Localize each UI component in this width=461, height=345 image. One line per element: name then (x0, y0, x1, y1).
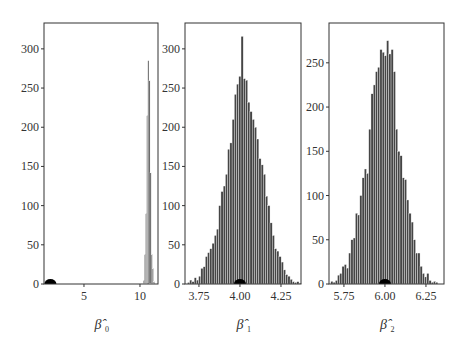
histogram-bar (250, 112, 252, 284)
histogram-bar (373, 85, 375, 284)
histogram-bar (427, 273, 429, 284)
histogram-bar (252, 119, 254, 284)
histogram-bar (254, 127, 256, 284)
histogram-bar (239, 76, 241, 284)
histogram-bar (371, 94, 373, 284)
x-tick-label: 5 (81, 289, 87, 303)
y-tick-label: 250 (21, 81, 39, 95)
y-tick-label: 150 (162, 159, 180, 173)
histogram-bar (190, 280, 192, 284)
histogram-bar (429, 280, 431, 284)
histogram-bar (288, 276, 290, 284)
x-axis-ticks: 5.756.006.25 (333, 284, 436, 303)
true-value-marker (44, 279, 56, 284)
histogram-bar (413, 240, 415, 284)
histogram-bar (393, 72, 395, 284)
histogram-bar (340, 273, 342, 284)
histogram-bar (398, 151, 400, 284)
histogram-bar (196, 280, 198, 284)
axes-frame (44, 23, 158, 284)
histogram-bar (378, 67, 380, 284)
histogram-bar (232, 119, 234, 284)
histogram-bar (281, 262, 283, 284)
histogram-bar (396, 129, 398, 284)
y-tick-label: 250 (306, 56, 324, 70)
histogram-bar (369, 129, 371, 284)
x-tick-label: 6.00 (374, 289, 395, 303)
y-tick-label: 50 (168, 238, 180, 252)
histogram-bars (143, 61, 154, 284)
histogram-bar (402, 178, 404, 284)
y-axis-ticks: 050100150200250300 (162, 42, 185, 291)
x-tick-label: 5.75 (333, 289, 354, 303)
histogram-bar (210, 249, 212, 284)
histogram-bar (335, 280, 337, 284)
histogram-bar (420, 266, 422, 284)
x-axis-label-subscript: 0 (105, 325, 109, 334)
x-tick-label: 4.00 (229, 289, 250, 303)
histogram-bar (248, 102, 250, 284)
histogram-bar (358, 215, 360, 284)
x-axis-label-subscript: 1 (247, 325, 251, 334)
histogram-bar (407, 200, 409, 284)
histogram-bar (418, 253, 420, 284)
x-axis-ticks: 510 (81, 284, 146, 303)
histogram-bar (228, 149, 230, 284)
x-tick-label: 6.25 (415, 289, 436, 303)
histogram-bar (212, 243, 214, 284)
histogram-bar (286, 275, 288, 284)
histogram-panel-beta2: 0501001502002505.756.006.25β̂2 (306, 23, 444, 334)
histogram-figure: 050100150200250300510β̂0 050100150200250… (0, 0, 461, 345)
y-tick-label: 50 (312, 233, 324, 247)
histogram-bar (387, 41, 389, 284)
y-tick-label: 0 (33, 277, 39, 291)
histogram-bar (364, 169, 366, 284)
histogram-bar (382, 52, 384, 284)
y-tick-label: 0 (318, 277, 324, 291)
histogram-bar (203, 267, 205, 284)
y-tick-label: 50 (27, 238, 39, 252)
histogram-bar (219, 206, 221, 284)
y-tick-label: 300 (162, 42, 180, 56)
histogram-bar (214, 235, 216, 284)
histogram-bar (404, 180, 406, 284)
histogram-bar (243, 79, 245, 284)
histogram-bar (375, 72, 377, 284)
histogram-bar (362, 178, 364, 284)
histogram-bar (391, 50, 393, 284)
histogram-bar (201, 268, 203, 284)
histogram-bar (230, 143, 232, 284)
histogram-bar (274, 249, 276, 284)
histogram-bar (355, 213, 357, 284)
histogram-bar (263, 174, 265, 284)
histogram-panel-beta0: 050100150200250300510β̂0 (21, 23, 158, 334)
histogram-bar (349, 253, 351, 284)
y-axis-ticks: 050100150200250 (306, 56, 329, 291)
x-tick-label: 10 (134, 289, 146, 303)
histogram-bar (234, 94, 236, 284)
histogram-bar (344, 265, 346, 284)
y-tick-label: 200 (306, 100, 324, 114)
histogram-bars (187, 36, 301, 284)
histogram-bar (400, 156, 402, 284)
histogram-bar (360, 196, 362, 284)
y-tick-label: 150 (21, 159, 39, 173)
histogram-bar (422, 273, 424, 284)
histogram-bar (257, 139, 259, 284)
y-tick-label: 300 (21, 42, 39, 56)
histogram-bar (272, 235, 274, 284)
y-axis-ticks: 050100150200250300 (21, 42, 44, 291)
histogram-bar (223, 186, 225, 284)
histogram-bar (261, 165, 263, 284)
x-tick-label: 4.25 (270, 289, 291, 303)
histogram-bar (380, 50, 382, 284)
histogram-bar (245, 80, 247, 284)
histogram-bar (266, 196, 268, 284)
histogram-bar (384, 56, 386, 284)
y-tick-label: 200 (21, 120, 39, 134)
y-tick-label: 0 (174, 277, 180, 291)
y-tick-label: 100 (21, 199, 39, 213)
histogram-bar (290, 279, 292, 284)
histogram-bar (337, 275, 339, 284)
histogram-bar (389, 54, 391, 284)
